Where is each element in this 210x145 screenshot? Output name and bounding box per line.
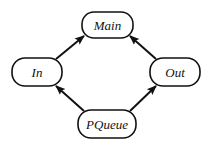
edge-pqueue-to-out [130, 86, 156, 111]
node-pqueue-label: PQueue [85, 117, 128, 132]
edge-out-to-main [130, 36, 156, 59]
edge-in-to-main [56, 36, 84, 59]
node-out-label: Out [165, 65, 185, 80]
node-out: Out [150, 58, 200, 86]
dependency-diagram: Main In Out PQueue [0, 0, 210, 145]
node-in-label: In [31, 65, 43, 80]
edge-pqueue-to-in [56, 86, 84, 111]
node-in: In [12, 58, 62, 86]
node-main: Main [82, 12, 133, 38]
node-main-label: Main [93, 18, 121, 33]
node-pqueue: PQueue [78, 110, 136, 138]
